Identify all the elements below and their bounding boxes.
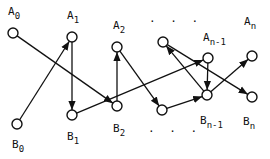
- diagram-canvas: A0A1A2An-1AnB0B1B2Bn-1Bn . . . . . .: [0, 0, 270, 159]
- edge-B0-to-A1: [20, 41, 70, 120]
- node-A0: [8, 28, 18, 38]
- node-An-1: [203, 53, 213, 63]
- node-A2: [112, 42, 122, 52]
- node-B0: [12, 119, 22, 129]
- node-Bn: [247, 92, 257, 102]
- label-Bn: Bn: [243, 115, 255, 131]
- graph-svg: A0A1A2An-1AnB0B1B2Bn-1Bn . . . . . .: [0, 0, 270, 159]
- label-B1: B1: [67, 130, 79, 146]
- label-B0: B0: [12, 138, 24, 154]
- label-An-1: An-1: [203, 31, 226, 47]
- label-B2: B2: [113, 122, 125, 138]
- node-An: [247, 51, 257, 61]
- label-Bn-1: Bn-1: [200, 114, 223, 130]
- edge-Bdots-to-Bn-1: [167, 97, 203, 109]
- edge-Bn-1-to-Adots: [166, 46, 204, 91]
- edge-An-1-to-Bn-1: [207, 63, 208, 90]
- edge-A0-to-B2: [17, 36, 113, 103]
- ellipsis-bottom: . . .: [148, 122, 201, 135]
- node-Bdots: [157, 105, 167, 115]
- edge-A2-to-Bdots: [120, 51, 159, 106]
- label-A1: A1: [67, 9, 79, 25]
- node-B2: [112, 101, 122, 111]
- node-Bn-1: [202, 90, 212, 100]
- node-A1: [67, 32, 77, 42]
- label-An: An: [244, 15, 256, 31]
- label-A2: A2: [113, 19, 125, 35]
- node-B1: [67, 110, 77, 120]
- label-A0: A0: [8, 5, 20, 21]
- node-Adots: [158, 37, 168, 47]
- ellipsis-top: . . .: [149, 12, 202, 25]
